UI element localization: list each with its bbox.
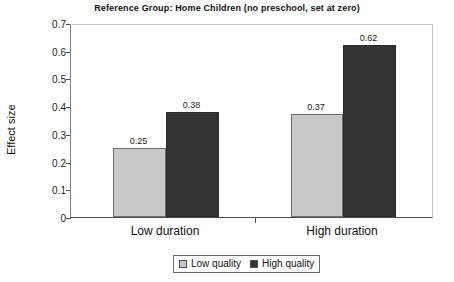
y-axis-title: Effect size (4, 60, 18, 200)
bar-low-quality-1 (291, 114, 343, 217)
legend-swatch-icon (250, 260, 258, 268)
bar-low-quality-0 (113, 148, 166, 217)
legend-swatch-icon (179, 260, 187, 268)
bar-high-quality-0 (166, 112, 219, 217)
y-axis-tick-label: 0.5 (22, 74, 66, 85)
bar-high-quality-1 (343, 45, 396, 217)
bar-chart: Reference Group: Home Children (no presc… (0, 0, 454, 282)
bar-value-label: 0.62 (360, 33, 378, 43)
legend-label: Low quality (191, 258, 241, 269)
y-axis-tick-label: 0.2 (22, 157, 66, 168)
x-axis-category-label: High duration (306, 224, 377, 238)
y-axis-tick-label: 0.6 (22, 46, 66, 57)
y-axis-tick-label: 0.1 (22, 185, 66, 196)
bar-value-label: 0.25 (130, 136, 148, 146)
y-axis-tick-label: 0.4 (22, 102, 66, 113)
y-axis-tick-mark (66, 218, 71, 219)
legend-entry-low-quality: Low quality (179, 258, 241, 269)
x-axis-category-label: Low duration (131, 224, 200, 238)
chart-legend: Low qualityHigh quality (173, 255, 320, 273)
category-separator-tick (255, 218, 256, 223)
y-axis-tick-label: 0.7 (22, 19, 66, 30)
bar-value-label: 0.37 (307, 102, 325, 112)
y-axis-tick-label: 0.3 (22, 129, 66, 140)
legend-label: High quality (262, 258, 314, 269)
chart-title: Reference Group: Home Children (no presc… (0, 3, 454, 13)
y-axis-tick-label: 0 (22, 213, 66, 224)
legend-entry-high-quality: High quality (250, 258, 314, 269)
bar-value-label: 0.38 (183, 100, 201, 110)
plot-area (70, 24, 433, 218)
